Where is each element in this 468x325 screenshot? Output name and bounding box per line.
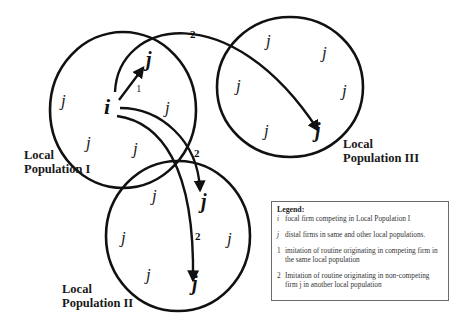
focal-firm-node: i <box>104 94 111 119</box>
legend-key: i <box>277 214 285 223</box>
legend-item-1: 1 imitation of routine originating in co… <box>277 246 443 264</box>
legend-key: j <box>277 230 285 239</box>
population-iii-label-line1: Local <box>343 137 419 151</box>
distal-firm-node: j <box>234 76 241 95</box>
arrow-label-2-top: 2 <box>190 28 196 40</box>
legend-key: 2 <box>277 271 285 280</box>
population-iii-label-line2: Population III <box>343 151 419 165</box>
legend-text: imitation of routine originating in comp… <box>285 246 443 264</box>
legend-text: Imitation of routine originating in non-… <box>285 271 443 289</box>
population-i-label-line1: Local <box>24 148 90 162</box>
arrow-label-2-lower: 2 <box>195 230 201 242</box>
legend-title: Legend: <box>277 205 443 214</box>
distal-firm-node: j <box>340 81 347 100</box>
legend-text: focal firm competing in Local Population… <box>285 214 443 223</box>
population-iii-label: Local Population III <box>343 137 419 165</box>
distal-firm-node: j <box>189 272 198 295</box>
legend-item-i: i focal firm competing in Local Populati… <box>277 214 443 223</box>
population-ii-label-line2: Population II <box>62 296 133 310</box>
distal-firm-node: j <box>131 139 138 158</box>
legend-key: 1 <box>277 246 285 255</box>
distal-firm-node: j <box>150 186 157 205</box>
population-i-label-line2: Population I <box>24 162 90 176</box>
distal-firm-node: j <box>163 98 170 117</box>
legend-item-j: j distal firms in same and other local p… <box>277 230 443 239</box>
arrow-label-1: 1 <box>136 82 142 94</box>
population-i-label: Local Population I <box>24 148 90 176</box>
population-ii-label-line1: Local <box>62 282 133 296</box>
legend-box: Legend: i focal firm competing in Local … <box>271 201 449 301</box>
distal-firm-node: j <box>143 48 152 71</box>
distal-firm-node: j <box>262 121 269 140</box>
distal-firm-node: j <box>320 43 327 62</box>
arrow-label-2-middle: 2 <box>194 147 200 159</box>
distal-firm-node: j <box>119 228 126 247</box>
distal-firm-node: j <box>198 190 207 213</box>
distal-firm-node: j <box>144 265 151 284</box>
population-ii-label: Local Population II <box>62 282 133 310</box>
distal-firm-node: j <box>264 31 271 50</box>
distal-firm-node: j <box>225 229 232 248</box>
distal-firm-node: j <box>59 91 66 110</box>
legend-item-2: 2 Imitation of routine originating in no… <box>277 271 443 289</box>
legend-text: distal firms in same and other local pop… <box>285 230 443 239</box>
